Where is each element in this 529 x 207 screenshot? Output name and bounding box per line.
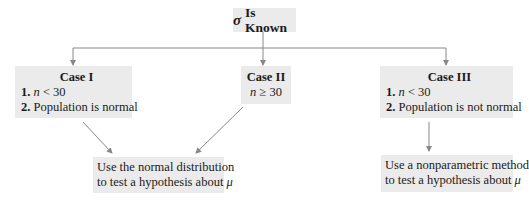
arrow-case2-to-normal bbox=[196, 107, 243, 153]
root-label: Is Known bbox=[245, 5, 296, 35]
case-2-title: Case II bbox=[241, 70, 291, 85]
case-1-condition-1: 1. n < 30 bbox=[21, 85, 132, 100]
case-3-node: Case III 1. n < 30 2. Population is not … bbox=[380, 66, 513, 118]
case-1-condition-2: 2. Population is normal bbox=[21, 100, 132, 115]
case-2-condition-1: n ≥ 30 bbox=[241, 85, 291, 100]
result-nonparametric-node: Use a nonparametric method to test a hyp… bbox=[381, 155, 513, 192]
mu-symbol: μ bbox=[515, 173, 521, 187]
result-nonparametric-line-2: to test a hypothesis about μ bbox=[385, 173, 509, 188]
case-3-title: Case III bbox=[386, 70, 513, 85]
root-node-sigma-known: σ Is Known bbox=[233, 8, 296, 32]
case-1-node: Case I 1. n < 30 2. Population is normal bbox=[15, 66, 132, 118]
case-3-condition-2: 2. Population is not normal bbox=[386, 100, 513, 115]
mu-symbol: μ bbox=[227, 175, 233, 189]
result-normal-line-1: Use the normal distribution bbox=[97, 160, 220, 175]
sigma-symbol: σ bbox=[233, 13, 241, 28]
result-normal-distribution-node: Use the normal distribution to test a hy… bbox=[93, 157, 224, 193]
arrow-case1-to-normal bbox=[83, 122, 112, 153]
case-2-node: Case II n ≥ 30 bbox=[241, 66, 291, 104]
case-1-title: Case I bbox=[21, 70, 132, 85]
result-normal-line-2: to test a hypothesis about μ bbox=[97, 175, 220, 190]
case-3-condition-1: 1. n < 30 bbox=[386, 85, 513, 100]
result-nonparametric-line-1: Use a nonparametric method bbox=[385, 158, 509, 173]
